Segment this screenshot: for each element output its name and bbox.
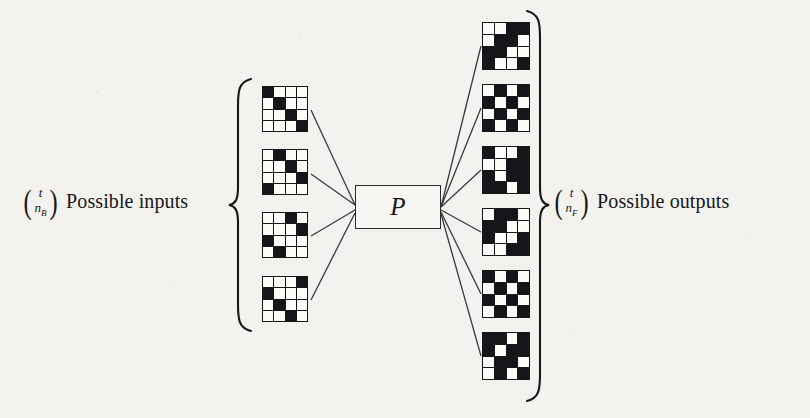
cell-0-3 bbox=[518, 333, 529, 344]
input-grid-3[interactable] bbox=[262, 212, 308, 258]
cell-1-3 bbox=[518, 35, 529, 46]
cell-0-1 bbox=[274, 150, 284, 160]
cell-1-0 bbox=[483, 35, 494, 46]
cell-1-0 bbox=[263, 224, 273, 234]
cell-2-2 bbox=[507, 233, 518, 244]
cell-0-3 bbox=[297, 150, 307, 160]
cell-2-3 bbox=[297, 300, 307, 310]
cell-0-3 bbox=[518, 23, 529, 34]
cell-2-3 bbox=[518, 171, 529, 182]
cell-1-1 bbox=[274, 161, 284, 171]
cell-1-3 bbox=[297, 224, 307, 234]
cell-1-1 bbox=[274, 98, 284, 108]
cell-2-2 bbox=[286, 173, 296, 183]
cell-2-0 bbox=[483, 171, 494, 182]
cell-0-0 bbox=[483, 209, 494, 220]
cell-0-3 bbox=[518, 209, 529, 220]
cell-2-1 bbox=[274, 300, 284, 310]
output-grid-1[interactable] bbox=[482, 22, 530, 70]
cell-1-2 bbox=[507, 159, 518, 170]
cell-2-1 bbox=[495, 109, 506, 120]
cell-1-0 bbox=[483, 283, 494, 294]
cell-1-3 bbox=[297, 288, 307, 298]
cell-1-2 bbox=[507, 97, 518, 108]
wire-output-2 bbox=[441, 108, 481, 207]
cell-2-2 bbox=[507, 357, 518, 368]
cell-1-3 bbox=[518, 159, 529, 170]
cell-3-3 bbox=[518, 58, 529, 69]
binomial-bottom: nB bbox=[34, 201, 46, 218]
wire-output-4 bbox=[441, 210, 481, 232]
cell-0-1 bbox=[274, 277, 284, 287]
cell-3-0 bbox=[263, 184, 273, 194]
cell-3-0 bbox=[263, 311, 273, 321]
cell-2-1 bbox=[274, 110, 284, 120]
cell-2-3 bbox=[297, 110, 307, 120]
cell-0-1 bbox=[495, 85, 506, 96]
binomial-stack: t nB bbox=[33, 186, 47, 218]
cell-2-3 bbox=[518, 109, 529, 120]
cell-3-3 bbox=[297, 247, 307, 257]
cell-1-0 bbox=[263, 288, 273, 298]
cell-0-0 bbox=[483, 271, 494, 282]
cell-1-0 bbox=[483, 97, 494, 108]
cell-1-3 bbox=[518, 283, 529, 294]
cell-1-0 bbox=[483, 345, 494, 356]
cell-3-0 bbox=[483, 368, 494, 379]
cell-2-2 bbox=[286, 300, 296, 310]
cell-0-1 bbox=[274, 87, 284, 97]
cell-0-0 bbox=[263, 150, 273, 160]
cell-3-1 bbox=[495, 182, 506, 193]
output-grid-6[interactable] bbox=[482, 332, 530, 380]
cell-1-3 bbox=[518, 345, 529, 356]
cell-2-1 bbox=[495, 295, 506, 306]
cell-3-3 bbox=[518, 244, 529, 255]
input-grid-1[interactable] bbox=[262, 86, 308, 132]
input-grid-4[interactable] bbox=[262, 276, 308, 322]
cell-3-1 bbox=[495, 58, 506, 69]
cell-0-2 bbox=[286, 150, 296, 160]
cell-0-1 bbox=[495, 209, 506, 220]
cell-2-0 bbox=[483, 233, 494, 244]
cell-2-1 bbox=[274, 236, 284, 246]
cell-2-3 bbox=[518, 357, 529, 368]
cell-2-1 bbox=[274, 173, 284, 183]
cell-2-0 bbox=[483, 47, 494, 58]
output-grid-3[interactable] bbox=[482, 146, 530, 194]
cell-2-2 bbox=[507, 47, 518, 58]
cell-1-1 bbox=[495, 345, 506, 356]
cell-2-1 bbox=[495, 233, 506, 244]
cell-0-1 bbox=[495, 333, 506, 344]
permutation-box[interactable]: P bbox=[355, 185, 441, 229]
cell-0-1 bbox=[495, 271, 506, 282]
input-grid-2[interactable] bbox=[262, 149, 308, 195]
cell-2-0 bbox=[263, 236, 273, 246]
cell-3-1 bbox=[495, 368, 506, 379]
cell-1-2 bbox=[286, 288, 296, 298]
output-grid-5[interactable] bbox=[482, 270, 530, 318]
cell-1-2 bbox=[286, 161, 296, 171]
left-caption: ( t nB ) Possible inputs bbox=[22, 186, 188, 218]
cell-3-1 bbox=[274, 247, 284, 257]
cell-3-0 bbox=[483, 120, 494, 131]
cell-1-0 bbox=[263, 161, 273, 171]
cell-0-0 bbox=[263, 87, 273, 97]
cell-3-2 bbox=[286, 247, 296, 257]
cell-3-2 bbox=[507, 182, 518, 193]
cell-3-1 bbox=[495, 244, 506, 255]
cell-1-1 bbox=[495, 283, 506, 294]
cell-3-3 bbox=[297, 121, 307, 131]
cell-0-2 bbox=[507, 85, 518, 96]
cell-2-0 bbox=[263, 300, 273, 310]
output-grid-2[interactable] bbox=[482, 84, 530, 132]
cell-3-0 bbox=[263, 121, 273, 131]
cell-1-0 bbox=[483, 159, 494, 170]
wire-input-4 bbox=[311, 213, 355, 300]
output-grid-4[interactable] bbox=[482, 208, 530, 256]
cell-2-2 bbox=[507, 171, 518, 182]
cell-0-2 bbox=[286, 87, 296, 97]
cell-1-3 bbox=[297, 161, 307, 171]
cell-2-1 bbox=[495, 171, 506, 182]
cell-3-1 bbox=[274, 184, 284, 194]
cell-2-0 bbox=[263, 173, 273, 183]
